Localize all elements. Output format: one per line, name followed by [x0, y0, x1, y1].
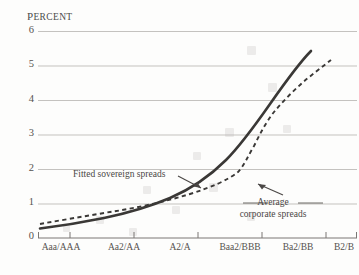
annotation-corporate-line1: Average [240, 197, 307, 209]
annotation-average-corporate-spreads: Average corporate spreads [240, 197, 307, 220]
annotation-corporate-line2: corporate spreads [240, 209, 307, 221]
y-tick-label: 1 [18, 196, 34, 207]
y-tick-label: 5 [18, 58, 34, 69]
y-axis-title: PERCENT [27, 10, 73, 22]
annotation-arrow-corporate [258, 184, 283, 195]
chart-plot-area [0, 0, 359, 275]
y-tick-label: 2 [18, 162, 34, 173]
x-tick-label-b2: B2/B [334, 242, 354, 252]
y-tick-label: 6 [18, 24, 34, 35]
x-axis [38, 232, 357, 238]
x-tick-label-ba2: Ba2/BB [283, 242, 314, 252]
x-tick-label-aaa: Aaa/AAA [42, 242, 81, 252]
y-tick-label: 3 [18, 127, 34, 138]
y-axis-title-rest: ERCENT [33, 12, 72, 22]
x-tick-label-aa2: Aa2/AA [108, 242, 140, 252]
x-tick-label-a2: A2/A [169, 242, 190, 252]
x-tick-label-baa2: Baa2/BBB [219, 242, 260, 252]
y-tick-label: 4 [18, 93, 34, 104]
chart-figure: PERCENT 6 5 4 3 2 1 0 Aaa/AAA Aa2/AA A2/… [0, 0, 359, 275]
y-tick-label: 0 [18, 230, 34, 241]
annotation-fitted-sovereign-spreads: Fitted sovereign spreads [73, 169, 165, 181]
